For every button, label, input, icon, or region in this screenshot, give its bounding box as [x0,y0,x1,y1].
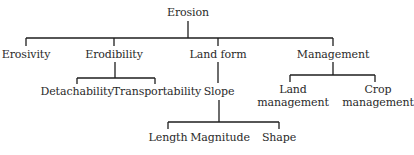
node-management: Management [297,48,369,61]
node-erosion: Erosion [167,6,209,19]
node-land-management-line2: management [257,96,329,109]
node-crop-management-line2: management [342,96,414,109]
node-shape: Shape [262,131,296,144]
node-slope: Slope [204,85,235,98]
node-land-management-line1: Land [257,83,329,96]
node-magnitude: Magnitude [190,131,250,144]
node-detachability: Detachability [40,85,113,98]
node-land-management: Land management [257,83,329,109]
node-crop-management: Crop management [342,83,414,109]
node-length: Length [149,131,188,144]
node-transportability: Transportability [113,85,201,98]
node-erosivity: Erosivity [2,48,51,61]
node-land-form: Land form [190,48,247,61]
node-crop-management-line1: Crop [342,83,414,96]
node-erodibility: Erodibility [85,48,143,61]
